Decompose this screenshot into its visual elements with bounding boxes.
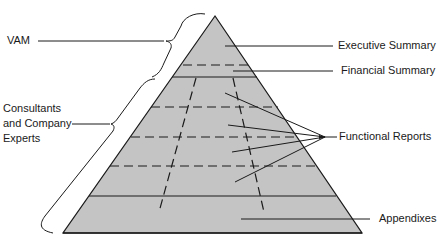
label-financial-summary: Financial Summary <box>341 64 435 77</box>
label-vam: VAM <box>7 34 30 47</box>
label-consultants-line1: Consultants <box>3 102 61 115</box>
label-consultants-line2: and Company <box>3 117 72 130</box>
label-consultants-line3: Experts <box>3 132 40 145</box>
label-executive-summary: Executive Summary <box>338 39 436 52</box>
label-appendixes: Appendixes <box>379 212 437 225</box>
label-functional-reports: Functional Reports <box>339 130 431 143</box>
